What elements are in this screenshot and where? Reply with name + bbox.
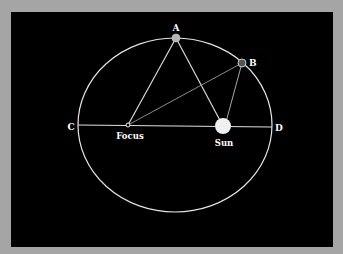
sun-icon [215, 118, 231, 134]
focus-point-icon [126, 123, 130, 127]
label-d: D [275, 123, 283, 133]
label-c: C [67, 122, 74, 132]
label-b: B [249, 58, 257, 68]
a-to-sun-line [176, 38, 223, 126]
orbit-diagram: A B C D Focus Sun [0, 0, 343, 254]
label-a: A [172, 23, 181, 33]
point-a-icon [172, 34, 180, 42]
label-focus: Focus [116, 131, 144, 141]
label-sun: Sun [215, 138, 234, 148]
point-b-icon [238, 59, 246, 67]
major-axis-line [78, 125, 272, 127]
b-to-sun-line [226, 63, 242, 122]
